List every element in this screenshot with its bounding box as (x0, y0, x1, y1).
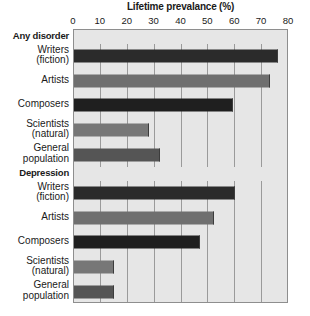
chart-row (74, 44, 287, 69)
category-label-writers: Writers(fiction) (0, 182, 69, 203)
label-line-1: General (33, 142, 69, 153)
label-line-1: Scientists (26, 118, 69, 129)
label-line-2: (natural) (0, 129, 69, 140)
bar (74, 261, 114, 274)
x-tick-label-50: 50 (202, 15, 213, 26)
category-label-artists: Artists (0, 75, 69, 86)
category-label-writers: Writers(fiction) (0, 45, 69, 66)
chart-row (74, 118, 287, 143)
label-line-1: Artists (41, 211, 69, 222)
label-line-2: (fiction) (0, 55, 69, 66)
x-axis-tick-labels: 01020304050607080 (73, 15, 288, 28)
category-labels: Any disorderWriters(fiction)ArtistsCompo… (0, 29, 71, 303)
bar (74, 124, 149, 137)
chart-row (74, 206, 287, 231)
label-line-1: General (33, 279, 69, 290)
chart-row (74, 181, 287, 206)
category-label-scientists: Scientists(natural) (0, 119, 69, 140)
label-line-1: Depression (19, 167, 69, 178)
category-label-composers: Composers (0, 236, 69, 247)
category-label-artists: Artists (0, 212, 69, 223)
bar (74, 99, 233, 112)
label-line-1: Composers (18, 235, 69, 246)
label-line-2: population (0, 154, 69, 165)
bar (74, 236, 200, 249)
bar (74, 285, 114, 298)
bar (74, 74, 270, 87)
label-line-1: Composers (18, 98, 69, 109)
label-line-2: (natural) (0, 266, 69, 277)
category-label-general: Generalpopulation (0, 143, 69, 164)
x-tick-label-70: 70 (256, 15, 267, 26)
x-tick-label-0: 0 (70, 15, 75, 26)
x-tick-label-60: 60 (229, 15, 240, 26)
group-label-depression: Depression (0, 168, 69, 179)
label-line-1: Scientists (26, 255, 69, 266)
bar (74, 50, 278, 63)
chart-row (74, 279, 287, 303)
chart-row (74, 142, 287, 167)
x-tick-label-80: 80 (283, 15, 294, 26)
category-label-general: Generalpopulation (0, 280, 69, 301)
x-tick-label-20: 20 (121, 15, 132, 26)
chart-row (74, 93, 287, 118)
x-tick-label-10: 10 (95, 15, 106, 26)
chart-row (74, 69, 287, 94)
group-band (74, 167, 287, 181)
category-label-composers: Composers (0, 99, 69, 110)
group-band (74, 30, 287, 44)
label-line-1: Artists (41, 74, 69, 85)
label-line-1: Writers (38, 181, 69, 192)
x-tick-label-30: 30 (148, 15, 159, 26)
group-label-any-disorder: Any disorder (0, 31, 69, 42)
chart-title: Lifetime prevalance (%) (73, 1, 288, 12)
label-line-1: Any disorder (13, 30, 69, 41)
label-line-1: Writers (38, 44, 69, 55)
plot-rows (74, 30, 287, 302)
chart-row (74, 255, 287, 280)
bar (74, 211, 214, 224)
bar (74, 148, 160, 161)
bar (74, 187, 235, 200)
label-line-2: population (0, 291, 69, 302)
bar-chart: Lifetime prevalance (%) 0102030405060708… (0, 0, 310, 316)
plot-area (73, 29, 288, 303)
x-tick-label-40: 40 (175, 15, 186, 26)
label-line-2: (fiction) (0, 192, 69, 203)
category-label-scientists: Scientists(natural) (0, 256, 69, 277)
chart-row (74, 230, 287, 255)
